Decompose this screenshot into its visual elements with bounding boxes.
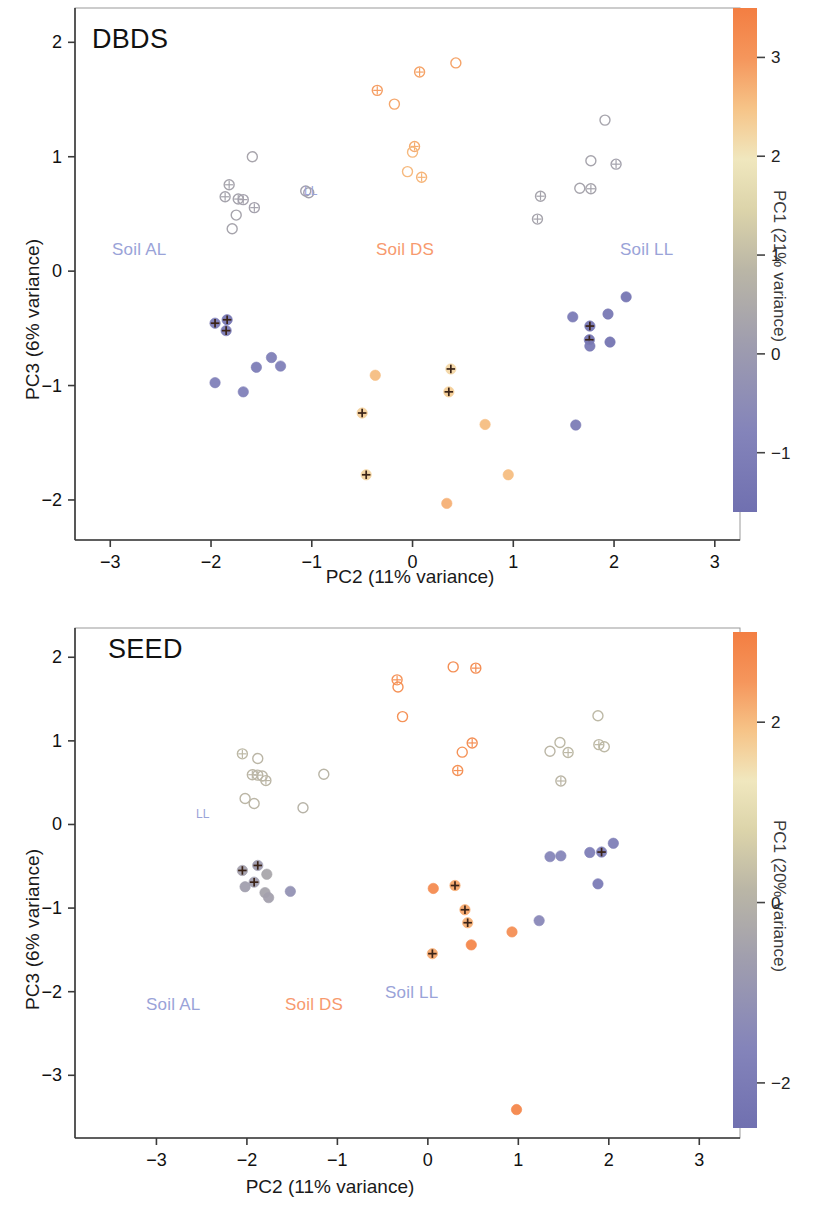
x-axis-label-dbds: PC2 (11% variance) [290,566,530,588]
data-point [393,682,403,692]
series-soil-al-open-high-pc1-light- [220,152,314,234]
data-point [600,115,610,125]
data-point [545,746,555,756]
data-point [457,747,467,757]
y-tick-label: −2 [41,490,62,510]
y-axis-label-dbds: PC3 (6% variance) [22,239,44,400]
colorbar-label-dbds: PC1 (21% variance) [769,190,789,342]
panel-dbds: −3−2−10123−2−1012−10123 DBDS PC3 (6% var… [0,0,817,610]
data-point [247,152,257,162]
data-point [428,883,438,893]
series-soil-ll-open-light- [545,711,609,786]
ll-annotation-dbds: LL [304,184,317,198]
series-soil-al-filled-low-pc1-purple- [210,315,286,397]
data-point [571,420,581,430]
x-tick-label: −3 [100,552,121,572]
y-tick-label: −3 [41,1065,62,1085]
y-tick-label: 1 [52,731,62,751]
y-tick-label: 0 [52,814,62,834]
data-point [319,769,329,779]
panel-seed: −3−2−10123−3−2−1012−202 SEED PC3 (6% var… [0,610,817,1220]
soil-ds-label-seed: Soil DS [285,995,343,1015]
x-tick-label: −2 [201,552,222,572]
data-point [621,292,631,302]
y-tick-label: 1 [52,147,62,167]
y-tick-label: −1 [41,898,62,918]
x-tick-label: 1 [513,1150,523,1170]
colorbar-tick-label: 2 [771,713,780,732]
y-tick-label: −1 [41,376,62,396]
y-tick-label: 2 [52,32,62,52]
data-point [586,156,596,166]
data-point [507,927,517,937]
data-point [585,847,595,857]
data-point [227,224,237,234]
colorbar-tick-label: 3 [771,48,780,67]
x-tick-label: −1 [327,1150,348,1170]
data-point [403,167,413,177]
series-soil-ds-open-high-pc1-orange- [372,58,461,182]
data-point [448,662,458,672]
data-point [442,498,452,508]
series-soil-ll-filled-purple- [534,838,619,926]
panel-title-seed: SEED [108,634,183,665]
x-tick-label: 0 [423,1150,433,1170]
data-point [263,892,273,902]
x-tick-label: 3 [694,1150,704,1170]
data-point [253,753,263,763]
y-tick-label: −2 [41,982,62,1002]
x-tick-label: −2 [237,1150,258,1170]
plot-frame [75,8,740,540]
data-point [503,470,513,480]
data-point [249,799,259,809]
data-point [605,337,615,347]
colorbar-tick-label: 0 [771,345,780,364]
data-point [568,312,578,322]
colorbar-tick-label: −1 [771,444,790,463]
data-point [251,362,261,372]
data-point [275,361,285,371]
data-point [389,99,399,109]
data-point [231,210,241,220]
x-tick-label: 3 [710,552,720,572]
data-point [370,370,380,380]
data-point [608,838,618,848]
series-soil-ds-filled-orange- [357,364,513,509]
data-point [285,886,295,896]
panel-title-dbds: DBDS [92,24,168,55]
series-soil-al-open-light-grey- [237,749,328,813]
y-tick-label: 0 [52,261,62,281]
data-point [466,940,476,950]
soil-al-label-seed: Soil AL [146,995,200,1015]
data-point [238,387,248,397]
plot-frame [75,628,740,1138]
data-point [398,712,408,722]
y-tick-label: 2 [52,647,62,667]
colorbar-tick-label: 2 [771,147,780,166]
data-point [534,915,544,925]
data-point [480,419,490,429]
series-soil-ds-filled-orange- [427,880,522,1114]
data-point [603,309,613,319]
data-point [593,879,603,889]
data-point [298,803,308,813]
x-tick-label: 2 [604,1150,614,1170]
data-point [555,738,565,748]
x-tick-label: −3 [146,1150,167,1170]
soil-ll-label-seed: Soil LL [385,983,438,1003]
data-point [585,341,595,351]
x-tick-label: 2 [609,552,619,572]
soil-al-label-dbds: Soil AL [112,240,166,260]
data-point [593,711,603,721]
data-point [545,851,555,861]
colorbar [733,632,757,1128]
soil-ll-label-dbds: Soil LL [620,240,673,260]
data-point [262,869,272,879]
x-axis-label-seed: PC2 (11% variance) [210,1176,450,1198]
series-soil-ll-open-light- [532,115,621,224]
y-axis-label-seed: PC3 (6% variance) [22,849,44,1010]
data-point [408,147,418,157]
dbds-scatter-plot: −3−2−10123−2−1012−10123 [0,0,817,610]
series-soil-al-filled-dark-grey- [237,860,295,903]
colorbar-tick-label: −2 [771,1074,790,1093]
